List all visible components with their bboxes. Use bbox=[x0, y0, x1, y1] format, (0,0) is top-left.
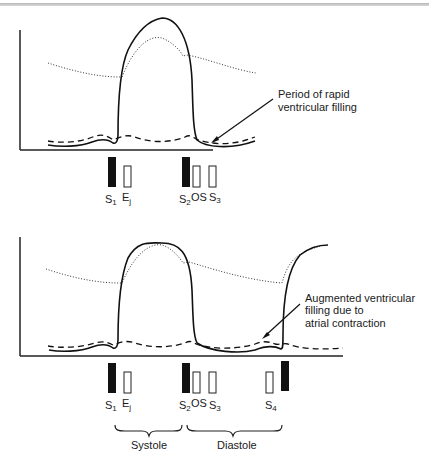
label-os: OS bbox=[191, 397, 207, 409]
label-s1: S1 bbox=[105, 193, 117, 207]
label-ej: Ej bbox=[122, 191, 131, 206]
annotation-line-1: Augmented ventricular bbox=[305, 292, 415, 304]
bar-s1-next bbox=[281, 361, 289, 391]
bar-s1 bbox=[108, 363, 116, 393]
annotation-line-1: Period of rapid bbox=[278, 88, 350, 100]
bar-s3 bbox=[209, 166, 216, 187]
label-os: OS bbox=[191, 191, 207, 203]
annotation-line-3: atrial contraction bbox=[305, 317, 386, 329]
bar-s2 bbox=[182, 157, 190, 187]
label-s4: S4 bbox=[265, 399, 277, 413]
bar-ej bbox=[124, 372, 131, 393]
atrial-pressure-curve bbox=[48, 341, 343, 348]
annotation-arrow bbox=[214, 99, 273, 141]
aortic-pressure-curve bbox=[46, 245, 325, 283]
label-s3: S3 bbox=[209, 191, 221, 205]
label-s1: S1 bbox=[105, 399, 117, 413]
label-ej: Ej bbox=[122, 397, 131, 412]
ventricular-pressure-curve bbox=[49, 243, 328, 352]
arrow-head-icon bbox=[211, 136, 219, 143]
bar-s2 bbox=[182, 363, 190, 393]
systole-label: Systole bbox=[131, 439, 167, 451]
diastole-brace bbox=[187, 425, 282, 436]
bar-s3 bbox=[209, 372, 216, 393]
bar-s4 bbox=[266, 372, 273, 393]
label-s3: S3 bbox=[209, 399, 221, 413]
diastole-label: Diastole bbox=[217, 439, 257, 451]
bar-os bbox=[193, 372, 200, 393]
bar-ej bbox=[124, 166, 131, 187]
panel-normal: Period of rapid ventricular filling S1 E… bbox=[20, 18, 357, 207]
heart-sound-diagram: Period of rapid ventricular filling S1 E… bbox=[0, 0, 429, 472]
bar-os bbox=[193, 166, 200, 187]
ventricular-pressure-curve bbox=[48, 18, 255, 147]
panel-augmented: Augmented ventricular filling due to atr… bbox=[20, 237, 415, 451]
bar-s1 bbox=[108, 157, 116, 187]
label-s2: S2 bbox=[179, 193, 191, 207]
annotation-line-2: ventricular filling bbox=[278, 101, 357, 113]
label-s2: S2 bbox=[179, 399, 191, 413]
annotation-line-2: filling due to bbox=[305, 304, 364, 316]
systole-brace bbox=[115, 425, 182, 436]
atrial-pressure-curve bbox=[48, 135, 255, 143]
aortic-pressure-curve bbox=[48, 37, 256, 77]
